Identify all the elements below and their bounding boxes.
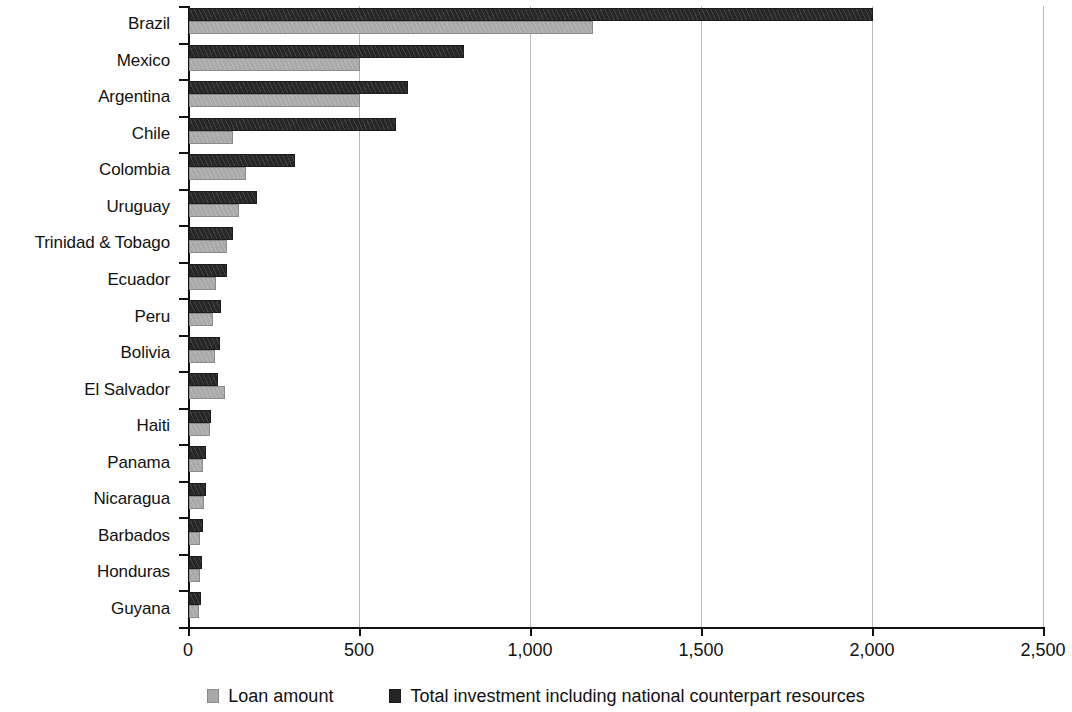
- y-axis-tick: [179, 554, 188, 556]
- x-axis-line: [187, 627, 1043, 629]
- y-axis-tick: [179, 627, 188, 629]
- y-axis-category-label: Argentina: [0, 88, 170, 105]
- y-axis-tick: [179, 116, 188, 118]
- y-axis-category-label: Ecuador: [0, 271, 170, 288]
- legend-item: Loan amount: [207, 686, 333, 706]
- x-axis-tick-label: 1,500: [678, 640, 723, 660]
- y-axis-category-label: Panama: [0, 454, 170, 471]
- bar-total-investment: [189, 592, 201, 605]
- y-axis-tick: [179, 298, 188, 300]
- bar-total-investment: [189, 118, 396, 131]
- x-axis-tick-label: 0: [183, 640, 193, 660]
- y-axis-category-label: Brazil: [0, 15, 170, 32]
- x-axis-tick: [530, 627, 532, 636]
- chart-legend: Loan amountTotal investment including na…: [0, 680, 1072, 712]
- legend-label: Loan amount: [228, 686, 333, 706]
- y-axis-tick: [179, 225, 188, 227]
- bar-total-investment: [189, 8, 873, 21]
- y-axis-tick: [179, 152, 188, 154]
- y-axis-category-label: Uruguay: [0, 198, 170, 215]
- y-axis-tick: [179, 335, 188, 337]
- x-gridline: [872, 6, 873, 627]
- y-axis-tick: [179, 444, 188, 446]
- y-axis-category-label: Chile: [0, 125, 170, 142]
- bar-total-investment: [189, 45, 464, 58]
- y-axis-tick: [179, 262, 188, 264]
- bar-loan-amount: [189, 167, 246, 180]
- x-gridline: [530, 6, 531, 627]
- legend-swatch-total: [389, 689, 401, 703]
- x-axis-tick: [188, 627, 190, 636]
- x-axis-tick-label: 500: [344, 640, 374, 660]
- bar-total-investment: [189, 300, 221, 313]
- legend-label: Total investment including national coun…: [410, 686, 864, 706]
- bar-loan-amount: [189, 131, 233, 144]
- y-axis-category-label: Bolivia: [0, 344, 170, 361]
- bar-total-investment: [189, 81, 408, 94]
- x-axis-tick: [701, 627, 703, 636]
- bar-total-investment: [189, 483, 206, 496]
- bar-total-investment: [189, 519, 203, 532]
- bar-total-investment: [189, 556, 202, 569]
- x-gridline: [701, 6, 702, 627]
- bar-loan-amount: [189, 21, 593, 34]
- bar-total-investment: [189, 410, 211, 423]
- y-axis-category-label: Honduras: [0, 563, 170, 580]
- plot-area: 05001,0001,5002,0002,500: [188, 6, 1043, 627]
- bar-total-investment: [189, 446, 206, 459]
- bar-loan-amount: [189, 423, 210, 436]
- bar-loan-amount: [189, 58, 360, 71]
- bar-loan-amount: [189, 605, 199, 618]
- bar-loan-amount: [189, 94, 360, 107]
- legend-item: Total investment including national coun…: [389, 686, 864, 706]
- legend-swatch-loan: [207, 689, 219, 703]
- bar-total-investment: [189, 337, 220, 350]
- y-axis-category-label: Guyana: [0, 600, 170, 617]
- x-axis-tick-label: 2,000: [849, 640, 894, 660]
- bar-loan-amount: [189, 350, 215, 363]
- x-axis-tick-label: 2,500: [1020, 640, 1065, 660]
- bar-loan-amount: [189, 496, 204, 509]
- bar-loan-amount: [189, 313, 213, 326]
- bar-chart: BrazilMexicoArgentinaChileColombiaUrugua…: [0, 0, 1072, 712]
- y-axis-category-label: Mexico: [0, 52, 170, 69]
- y-axis-category-label: Barbados: [0, 527, 170, 544]
- y-axis-tick: [179, 481, 188, 483]
- bar-loan-amount: [189, 459, 203, 472]
- y-axis-category-label: Colombia: [0, 161, 170, 178]
- x-gridline: [1043, 6, 1044, 627]
- y-axis-tick: [179, 189, 188, 191]
- y-axis-category-label: Peru: [0, 308, 170, 325]
- y-axis-category-label: Trinidad & Tobago: [0, 234, 170, 251]
- bar-total-investment: [189, 191, 257, 204]
- x-axis-tick-label: 1,000: [507, 640, 552, 660]
- bar-loan-amount: [189, 240, 227, 253]
- bar-loan-amount: [189, 386, 225, 399]
- y-axis-tick: [179, 517, 188, 519]
- y-axis-tick: [179, 590, 188, 592]
- bar-total-investment: [189, 373, 218, 386]
- x-axis-tick: [359, 627, 361, 636]
- y-axis-category-label: El Salvador: [0, 381, 170, 398]
- y-axis-labels: BrazilMexicoArgentinaChileColombiaUrugua…: [0, 6, 180, 627]
- bar-loan-amount: [189, 204, 239, 217]
- bar-loan-amount: [189, 277, 216, 290]
- bar-loan-amount: [189, 532, 200, 545]
- x-axis-tick: [1043, 627, 1045, 636]
- bar-loan-amount: [189, 569, 200, 582]
- bar-total-investment: [189, 227, 233, 240]
- y-axis-tick: [179, 371, 188, 373]
- y-axis-tick: [179, 408, 188, 410]
- y-axis-category-label: Nicaragua: [0, 490, 170, 507]
- y-axis-tick: [179, 79, 188, 81]
- bar-total-investment: [189, 264, 227, 277]
- y-axis-tick: [179, 43, 188, 45]
- y-axis-category-label: Haiti: [0, 417, 170, 434]
- y-axis-tick: [179, 6, 188, 8]
- x-axis-tick: [872, 627, 874, 636]
- bar-total-investment: [189, 154, 295, 167]
